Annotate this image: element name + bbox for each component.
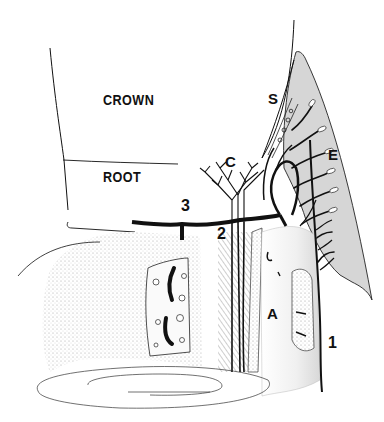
alveolar-bone xyxy=(18,226,202,372)
tooth-outline xyxy=(50,20,294,232)
tooth-base-ellipses xyxy=(37,367,269,409)
diagram-canvas: CROWN ROOT S E C 3 2 A 1 xyxy=(0,0,384,422)
diagram-artwork xyxy=(0,0,384,422)
vessel-3 xyxy=(132,145,298,226)
label-S: S xyxy=(268,91,278,106)
label-1: 1 xyxy=(328,335,337,351)
capillary-tree xyxy=(200,162,264,222)
label-C: C xyxy=(225,154,236,169)
label-A: A xyxy=(267,306,278,321)
crown-label: CROWN xyxy=(103,93,154,107)
periodontal-ligament xyxy=(218,222,262,372)
label-3: 3 xyxy=(181,198,190,214)
label-E: E xyxy=(328,147,338,162)
label-2: 2 xyxy=(217,226,226,242)
root-label: ROOT xyxy=(103,170,141,184)
